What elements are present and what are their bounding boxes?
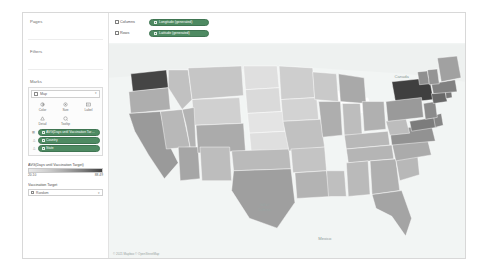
marks-pill-state[interactable]: State <box>38 145 101 152</box>
geo-label: California <box>258 208 271 212</box>
spacer <box>28 70 103 79</box>
filters-dropzone[interactable] <box>28 56 103 70</box>
rows-icon <box>115 31 119 35</box>
state-ms[interactable] <box>327 171 347 197</box>
mark-type-value: Map <box>40 92 93 96</box>
size-legend: Vaccination Target Random ▾ <box>28 182 103 196</box>
size-icon <box>63 102 68 107</box>
color-legend-scale: 20.10 88.49 <box>28 173 103 177</box>
choropleth-map[interactable]: CanadaMexicoGulf ofCalifornia <box>109 43 465 258</box>
marks-pill-prefix: △ <box>31 138 36 142</box>
state-or[interactable] <box>129 88 171 114</box>
mark-property-grid: Color Size Label <box>31 100 100 128</box>
mark-button-detail[interactable]: Detail <box>31 114 54 128</box>
size-legend-icon <box>31 191 34 194</box>
spacer <box>28 40 103 49</box>
measure-icon <box>154 21 157 24</box>
state-mt[interactable] <box>188 66 243 100</box>
label-icon <box>86 102 91 107</box>
state-ne[interactable] <box>247 111 285 133</box>
detail-icon <box>40 116 45 121</box>
state-ia[interactable] <box>281 98 319 122</box>
state-mn[interactable] <box>279 66 315 100</box>
marks-pill-prefix: ▤ <box>31 130 36 134</box>
marks-pill-row: △ Country <box>31 137 100 144</box>
tooltip-icon <box>63 116 68 121</box>
marks-pill-color[interactable]: AVG(Days until Vaccination Target) <box>38 129 101 136</box>
columns-shelf[interactable]: Columns Longitude (generated) <box>115 18 459 26</box>
marks-pill-country[interactable]: Country <box>38 137 101 144</box>
state-me[interactable] <box>437 56 461 82</box>
mark-button-color[interactable]: Color <box>31 100 54 114</box>
state-wy[interactable] <box>192 98 241 126</box>
state-mo[interactable] <box>283 119 325 151</box>
marks-pill-prefix: △ <box>31 146 36 150</box>
measure-icon <box>42 131 45 134</box>
rows-shelf[interactable]: Rows Latitude (generated) <box>115 29 459 37</box>
size-legend-title: Vaccination Target <box>28 182 103 188</box>
mark-button-label[interactable]: Label <box>77 100 100 114</box>
worksheet-sidebar: Pages Filters Marks Map ▾ Color <box>23 13 109 258</box>
state-ga[interactable] <box>370 159 400 195</box>
columns-shelf-label: Columns <box>120 20 135 24</box>
state-sd[interactable] <box>245 88 281 114</box>
state-pa[interactable] <box>386 98 424 122</box>
state-nm[interactable] <box>200 147 232 181</box>
state-az[interactable] <box>178 147 200 181</box>
pages-dropzone[interactable] <box>28 26 103 40</box>
size-legend-value: Random <box>36 191 96 195</box>
marks-pill-row: ▤ AVG(Days until Vaccination Target) <box>31 129 100 136</box>
color-legend: AVG(Days until Vaccination Target) 20.10… <box>28 162 103 178</box>
tableau-worksheet: Pages Filters Marks Map ▾ Color <box>22 12 466 259</box>
map-canvas[interactable]: CanadaMexicoGulf ofCalifornia © 2021 Map… <box>109 43 465 258</box>
state-nh[interactable] <box>427 69 439 85</box>
shelves-area: Columns Longitude (generated) Rows Latit… <box>109 13 465 43</box>
mark-button-size-label: Size <box>62 108 68 112</box>
state-ar[interactable] <box>291 147 327 173</box>
state-il[interactable] <box>319 102 343 138</box>
state-in[interactable] <box>342 104 362 136</box>
mark-button-color-label: Color <box>39 108 47 112</box>
map-mark-icon <box>34 92 38 96</box>
marks-card: Map ▾ Color Size <box>28 87 103 156</box>
color-legend-max: 88.49 <box>95 173 103 177</box>
mark-button-detail-label: Detail <box>38 122 46 126</box>
mark-button-tooltip[interactable]: Tooltip <box>54 114 77 128</box>
mark-button-tooltip-label: Tooltip <box>61 122 70 126</box>
mark-type-dropdown[interactable]: Map ▾ <box>31 90 100 98</box>
marks-pill-label: Country <box>46 138 96 142</box>
rows-shelf-label-group: Rows <box>115 31 145 35</box>
columns-shelf-label-group: Columns <box>115 20 145 24</box>
state-la[interactable] <box>295 171 331 199</box>
state-al[interactable] <box>346 161 370 197</box>
state-oh[interactable] <box>362 102 386 132</box>
color-icon <box>40 102 45 107</box>
rows-pill-label: Latitude (generated) <box>159 31 190 35</box>
state-ok[interactable] <box>232 149 291 171</box>
measure-icon <box>154 32 157 35</box>
color-legend-min: 20.10 <box>28 173 36 177</box>
filters-card: Filters <box>28 49 103 70</box>
dimension-icon <box>42 139 45 142</box>
geo-label: Gulf of <box>260 203 269 207</box>
map-attribution: © 2021 Mapbox © OpenStreetMap <box>113 252 159 256</box>
chevron-down-icon: ▾ <box>98 191 100 195</box>
marks-pill-label: AVG(Days until Vaccination Target) <box>46 130 96 134</box>
geo-label: Canada <box>394 74 409 79</box>
pages-title: Pages <box>28 19 103 25</box>
worksheet-main: Columns Longitude (generated) Rows Latit… <box>109 13 465 258</box>
rows-pill-latitude[interactable]: Latitude (generated) <box>149 30 209 37</box>
marks-title: Marks <box>28 79 103 85</box>
filters-title: Filters <box>28 49 103 55</box>
marks-pill-label: State <box>46 146 96 150</box>
size-legend-dropdown[interactable]: Random ▾ <box>28 189 103 196</box>
rows-shelf-label: Rows <box>120 31 130 35</box>
state-nd[interactable] <box>243 66 279 90</box>
columns-pill-longitude[interactable]: Longitude (generated) <box>149 19 209 26</box>
state-nj[interactable] <box>423 102 437 120</box>
state-mi[interactable] <box>338 74 366 104</box>
mark-button-size[interactable]: Size <box>54 100 77 114</box>
color-legend-gradient[interactable] <box>28 168 103 173</box>
dimension-icon <box>42 147 45 150</box>
state-wi[interactable] <box>313 72 339 102</box>
